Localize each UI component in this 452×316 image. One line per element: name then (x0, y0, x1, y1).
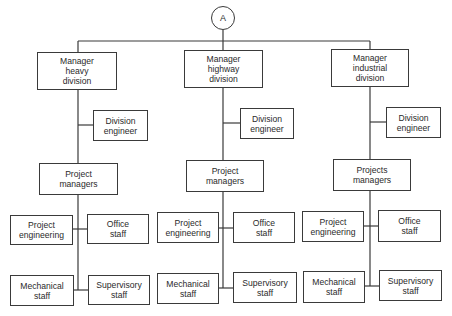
division-engineer-highway: Division engineer (240, 108, 294, 139)
office-staff-industrial: Office staff (378, 210, 441, 242)
mechanical-staff-highway: Mechanical staff (157, 273, 219, 304)
project-engineering-heavy: Project engineering (10, 215, 73, 245)
connector-label: A (220, 13, 226, 23)
supervisory-staff-industrial: Supervisory staff (379, 270, 442, 301)
office-staff-highway: Office staff (233, 212, 295, 243)
division-engineer-industrial: Division engineer (386, 107, 441, 138)
project-managers-heavy: Project managers (39, 163, 118, 195)
project-managers-highway: Project managers (186, 160, 264, 192)
mechanical-staff-heavy: Mechanical staff (10, 275, 74, 306)
mechanical-staff-industrial: Mechanical staff (303, 271, 365, 303)
manager-industrial-division: Manager industrial division (331, 49, 409, 87)
connector-a-circle: A (211, 6, 235, 30)
project-engineering-highway: Project engineering (157, 212, 219, 243)
manager-heavy-division: Manager heavy division (37, 52, 117, 90)
project-engineering-industrial: Project engineering (302, 211, 364, 242)
connector-lines (0, 0, 452, 316)
supervisory-staff-heavy: Supervisory staff (88, 275, 150, 305)
division-engineer-heavy: Division engineer (93, 110, 148, 141)
manager-highway-division: Manager highway division (184, 50, 263, 88)
projects-managers-industrial: Projects managers (333, 159, 411, 191)
supervisory-staff-highway: Supervisory staff (233, 272, 297, 303)
office-staff-heavy: Office staff (87, 214, 149, 244)
